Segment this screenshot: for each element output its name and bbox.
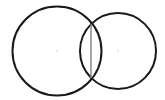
right-center-point [117,50,119,52]
left-center-point [56,50,58,52]
intersecting-circles-diagram [0,0,165,100]
